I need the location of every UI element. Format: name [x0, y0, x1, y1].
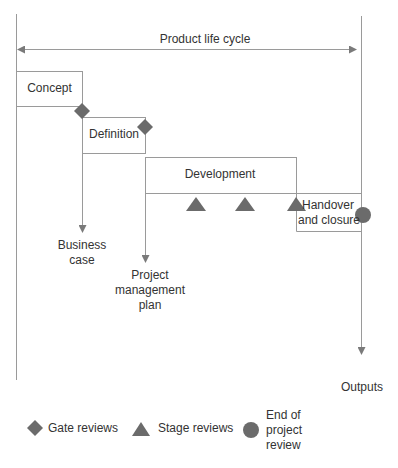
legend-end-review-line2: project — [266, 423, 302, 438]
life-cycle-title: Product life cycle — [140, 32, 270, 47]
circle-icon — [243, 422, 259, 438]
output-pm-plan-line2: management — [110, 283, 190, 298]
output-outputs: Outputs — [332, 380, 392, 395]
legend-stage-reviews: Stage reviews — [158, 421, 233, 436]
stage-review-triangle-2 — [235, 197, 255, 211]
diagram-canvas — [0, 0, 398, 468]
legend-gate-reviews: Gate reviews — [48, 421, 118, 436]
phase-handover-line2: and closure — [298, 213, 358, 228]
triangle-icon — [132, 422, 150, 436]
output-pm-plan-line3: plan — [110, 298, 190, 313]
output-pm-plan-line1: Project — [110, 268, 190, 283]
phase-definition: Definition — [83, 127, 145, 142]
legend-end-review-line1: End of — [266, 408, 301, 423]
gate-review-diamond-1 — [74, 103, 90, 119]
legend-end-review-line3: review — [266, 438, 301, 453]
output-business-case-line1: Business — [52, 238, 112, 253]
phase-concept: Concept — [17, 81, 82, 96]
output-business-case-line2: case — [52, 253, 112, 268]
phase-development: Development — [160, 167, 280, 182]
phase-handover-line1: Handover — [298, 198, 358, 213]
stage-review-triangle-1 — [186, 197, 206, 211]
diamond-icon — [27, 420, 43, 436]
